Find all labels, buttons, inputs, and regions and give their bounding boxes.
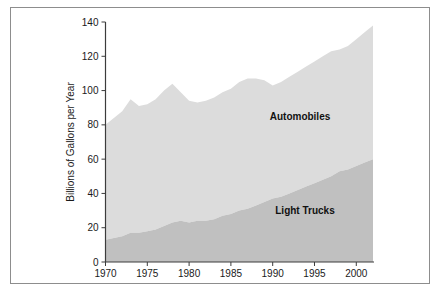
- x-tick-label: 1995: [303, 268, 326, 279]
- x-tick-label: 1975: [136, 268, 159, 279]
- y-tick-label: 140: [82, 17, 99, 28]
- y-tick-label: 20: [87, 222, 99, 233]
- x-tick-label: 1970: [94, 268, 117, 279]
- x-tick-label: 2000: [345, 268, 368, 279]
- y-tick-label: 80: [87, 119, 99, 130]
- x-tick-label: 1990: [262, 268, 285, 279]
- x-tick-label: 1980: [178, 268, 201, 279]
- y-tick-label: 120: [82, 51, 99, 62]
- y-tick-label: 40: [87, 188, 99, 199]
- area-chart-svg: 0204060801001201401970197519801985199019…: [0, 0, 439, 300]
- series-label-light-trucks: Light Trucks: [275, 205, 335, 216]
- y-tick-label: 0: [93, 257, 99, 268]
- y-tick-label: 60: [87, 154, 99, 165]
- y-tick-label: 100: [82, 85, 99, 96]
- series-label-automobiles: Automobiles: [270, 111, 331, 122]
- plot-area: [106, 25, 374, 262]
- x-tick-label: 1985: [220, 268, 243, 279]
- y-axis-title: Billions of Gallons per Year: [65, 82, 76, 202]
- chart-figure: 0204060801001201401970197519801985199019…: [0, 0, 439, 300]
